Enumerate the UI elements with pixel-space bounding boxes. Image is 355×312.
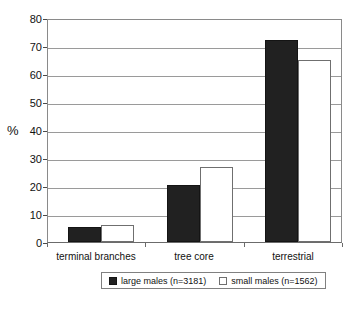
bar-terrestrial-series-0 bbox=[265, 40, 298, 242]
bar-terrestrial-series-1 bbox=[298, 60, 331, 242]
y-tick-label-10: 10 bbox=[18, 210, 42, 221]
bar-tree-core-series-1 bbox=[200, 167, 233, 242]
y-tick-label-0: 0 bbox=[18, 238, 42, 249]
legend-entry-0: large males (n=3181) bbox=[109, 276, 206, 286]
x-tick-mark-3 bbox=[342, 243, 343, 247]
y-tick-label-40: 40 bbox=[18, 126, 42, 137]
y-tick-label-50: 50 bbox=[18, 98, 42, 109]
bar-terminal-branches-series-1 bbox=[101, 225, 134, 242]
legend-label-1: small males (n=1562) bbox=[231, 276, 317, 286]
y-tick-label-80: 80 bbox=[18, 14, 42, 25]
y-tick-label-60: 60 bbox=[18, 70, 42, 81]
bar-terminal-branches-series-0 bbox=[68, 227, 101, 242]
x-tick-mark-2 bbox=[244, 243, 245, 247]
x-tick-mark-0 bbox=[47, 243, 48, 247]
legend-entry-1: small males (n=1562) bbox=[219, 276, 317, 286]
x-tick-mark-1 bbox=[145, 243, 146, 247]
legend-label-0: large males (n=3181) bbox=[121, 276, 206, 286]
legend-swatch-filled-icon bbox=[109, 277, 117, 285]
y-axis-title: % bbox=[7, 124, 19, 137]
x-axis-label-terrestrial: terrestrial bbox=[233, 251, 353, 262]
y-tick-label-70: 70 bbox=[18, 42, 42, 53]
plot-area bbox=[47, 19, 342, 243]
bar-chart-figure: % 01020304050607080 terminal branchestre… bbox=[0, 0, 355, 312]
y-tick-label-20: 20 bbox=[18, 182, 42, 193]
bar-tree-core-series-0 bbox=[167, 185, 200, 242]
y-tick-label-30: 30 bbox=[18, 154, 42, 165]
chart-legend: large males (n=3181)small males (n=1562) bbox=[101, 272, 326, 289]
legend-swatch-open-icon bbox=[219, 277, 227, 285]
